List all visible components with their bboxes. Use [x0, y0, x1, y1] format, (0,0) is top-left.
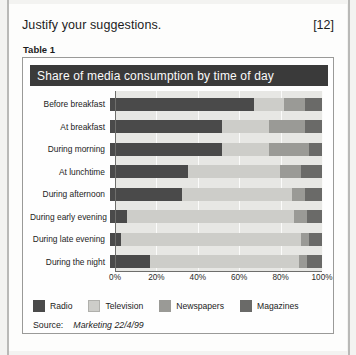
bar-row: At breakfast: [30, 116, 322, 139]
bar-segment-magazines: [301, 165, 322, 178]
question-row: Justify your suggestions. [12]: [22, 18, 334, 32]
bar-segment-newspapers: [299, 255, 307, 268]
chart-plot: Before breakfastAt breakfastDuring morni…: [30, 91, 328, 291]
legend-label: Magazines: [257, 301, 299, 311]
bar-segment-television: [188, 165, 279, 178]
bar-segment-newspapers: [294, 210, 307, 223]
stacked-bar: [110, 165, 322, 178]
bar-row-label: At breakfast: [30, 122, 110, 132]
legend-label: Newspapers: [176, 301, 224, 311]
bar-segment-magazines: [309, 233, 322, 246]
y-axis-line: [115, 91, 116, 271]
stacked-bar: [110, 255, 322, 268]
stacked-bar: [110, 233, 322, 246]
bar-segment-television: [222, 120, 269, 133]
legend-label: Radio: [50, 301, 72, 311]
bar-segment-newspapers: [301, 233, 309, 246]
bar-segment-newspapers: [269, 143, 309, 156]
bar-segment-magazines: [309, 143, 322, 156]
bar-row: During afternoon: [30, 183, 322, 206]
bar-segment-radio: [110, 165, 188, 178]
gridline-100: [322, 91, 323, 271]
bar-segment-television: [222, 143, 269, 156]
stacked-bar: [110, 120, 322, 133]
bar-segment-magazines: [307, 210, 322, 223]
bar-segment-television: [182, 188, 292, 201]
stacked-bar: [110, 188, 322, 201]
source-value: Marketing 22/4/99: [73, 320, 143, 330]
bar-row: During late evening: [30, 228, 322, 251]
bar-row: During the night: [30, 251, 322, 274]
stacked-bar: [110, 210, 322, 223]
chart-title-bar: Share of media consumption by time of da…: [30, 65, 328, 86]
legend-swatch-magazines: [240, 300, 252, 312]
bar-segment-radio: [110, 120, 222, 133]
bar-segment-television: [127, 210, 294, 223]
stacked-bar: [110, 98, 322, 111]
bar-segment-radio: [110, 98, 254, 111]
x-tick-label: 60%: [231, 273, 247, 282]
page-edge-right-rule: [348, 0, 350, 355]
bar-row: At lunchtime: [30, 161, 322, 184]
page-background: Justify your suggestions. [12] Table 1 S…: [0, 0, 356, 355]
question-marks: [12]: [313, 18, 334, 32]
legend-item-newspapers: Newspapers: [159, 300, 224, 312]
question-text: Justify your suggestions.: [22, 18, 161, 32]
x-tick-label: 80%: [272, 273, 288, 282]
chart-title: Share of media consumption by time of da…: [30, 69, 274, 83]
legend-item-radio: Radio: [33, 300, 72, 312]
source-line: Source: Marketing 22/4/99: [33, 320, 144, 330]
stacked-bar: [110, 143, 322, 156]
bar-row-label: During late evening: [30, 234, 110, 244]
worksheet-sheet: Justify your suggestions. [12] Table 1 S…: [9, 4, 347, 351]
bar-row-label: At lunchtime: [30, 167, 110, 177]
legend-swatch-newspapers: [159, 300, 171, 312]
bar-row-label: During early evening: [30, 212, 110, 222]
bar-segment-radio: [110, 210, 127, 223]
x-tick-label: 20%: [148, 273, 164, 282]
bar-segment-television: [254, 98, 284, 111]
legend-item-television: Television: [88, 300, 143, 312]
bar-segment-radio: [110, 188, 182, 201]
legend-label: Television: [105, 301, 143, 311]
bar-segment-newspapers: [284, 98, 305, 111]
table-caption: Table 1: [23, 44, 55, 55]
bar-segment-magazines: [305, 188, 322, 201]
x-tick-label: 100%: [312, 273, 333, 282]
bar-row-label: During the night: [30, 257, 110, 267]
bar-segment-television: [121, 233, 301, 246]
bar-row: During early evening: [30, 206, 322, 229]
x-axis-ticks: 0%20%40%60%80%100%: [115, 273, 322, 287]
bar-row: During morning: [30, 138, 322, 161]
bar-segment-magazines: [307, 255, 322, 268]
bar-row-label: During morning: [30, 144, 110, 154]
bar-segment-radio: [110, 143, 222, 156]
legend-item-magazines: Magazines: [240, 300, 299, 312]
legend-swatch-television: [88, 300, 100, 312]
chart-legend: RadioTelevisionNewspapersMagazines: [33, 298, 323, 314]
bar-segment-newspapers: [280, 165, 301, 178]
x-axis-line: [115, 271, 322, 272]
bar-segment-newspapers: [292, 188, 305, 201]
source-label: Source:: [33, 320, 63, 330]
legend-swatch-radio: [33, 300, 45, 312]
bar-segment-newspapers: [269, 120, 305, 133]
chart-container: Share of media consumption by time of da…: [22, 57, 334, 334]
x-tick-label: 40%: [190, 273, 206, 282]
bar-segment-radio: [110, 255, 150, 268]
bar-row-label: During afternoon: [30, 189, 110, 199]
bar-row: Before breakfast: [30, 93, 322, 116]
bar-segment-magazines: [305, 120, 322, 133]
bar-segment-television: [150, 255, 298, 268]
x-tick-label: 0%: [109, 273, 121, 282]
bar-segment-magazines: [305, 98, 322, 111]
bar-row-label: Before breakfast: [30, 99, 110, 109]
